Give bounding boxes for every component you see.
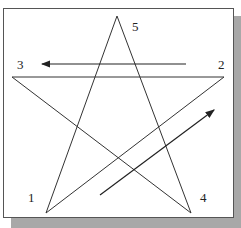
- star-diagram: 1 2 3 4 5: [0, 0, 241, 228]
- label-2: 2: [218, 57, 225, 72]
- label-4: 4: [200, 190, 207, 205]
- star-lines: [12, 16, 224, 213]
- label-3: 3: [17, 57, 24, 72]
- label-1: 1: [28, 190, 35, 205]
- label-5: 5: [132, 19, 139, 34]
